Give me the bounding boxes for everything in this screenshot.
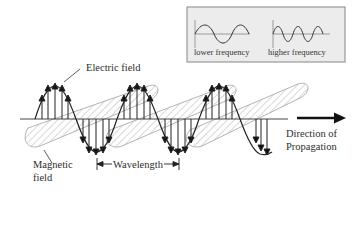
electric-field-leader bbox=[64, 69, 80, 82]
higher-frequency-label: higher frequency bbox=[268, 47, 326, 57]
direction-label-line1: Direction of bbox=[286, 127, 337, 140]
propagation-arrow-icon bbox=[297, 113, 346, 124]
magnetic-field-label-line2: field bbox=[33, 171, 73, 184]
lower-frequency-label: lower frequency bbox=[194, 47, 249, 57]
magnetic-field-label-line1: Magnetic bbox=[33, 158, 73, 171]
direction-label-line2: Propagation bbox=[286, 140, 337, 153]
direction-label: Direction of Propagation bbox=[286, 127, 337, 153]
wavelength-label: Wavelength bbox=[113, 158, 163, 171]
magnetic-field-label: Magnetic field bbox=[33, 158, 73, 184]
electric-field-label: Electric field bbox=[86, 61, 141, 74]
